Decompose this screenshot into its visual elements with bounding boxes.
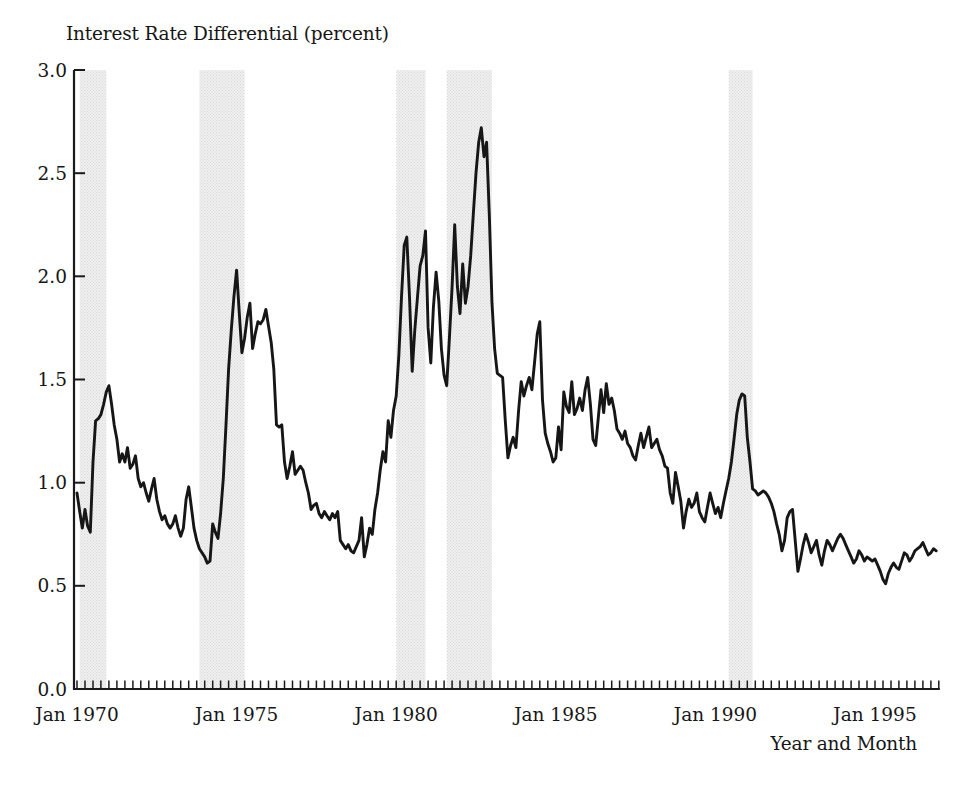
x-tick-label: Jan 1970	[33, 704, 118, 725]
chart-figure: 0.00.51.01.52.02.53.0Jan 1970Jan 1975Jan…	[0, 0, 977, 787]
x-tick-label: Jan 1985	[512, 704, 597, 725]
y-tick-label: 0.0	[38, 679, 67, 700]
recession-band	[729, 70, 753, 689]
recession-band	[396, 70, 425, 689]
y-tick-label: 1.0	[38, 472, 67, 493]
y-tick-label: 3.0	[38, 60, 67, 81]
recession-band	[199, 70, 244, 689]
chart-canvas: 0.00.51.01.52.02.53.0Jan 1970Jan 1975Jan…	[0, 0, 977, 787]
y-tick-label: 2.5	[38, 163, 67, 184]
y-tick-label: 1.5	[38, 369, 67, 390]
recession-bands	[80, 70, 753, 689]
y-tick-label: 2.0	[38, 266, 67, 287]
x-tick-label: Jan 1990	[672, 704, 757, 725]
y-tick-label: 0.5	[38, 575, 67, 596]
x-axis-title: Year and Month	[770, 733, 917, 754]
x-tick-labels: Jan 1970Jan 1975Jan 1980Jan 1985Jan 1990…	[33, 704, 916, 725]
x-tick-label: Jan 1995	[831, 704, 916, 725]
recession-band	[447, 70, 492, 689]
x-tick-label: Jan 1980	[353, 704, 438, 725]
y-tick-labels: 0.00.51.01.52.02.53.0	[38, 60, 67, 700]
chart-title: Interest Rate Differential (percent)	[66, 23, 389, 44]
line-chart: 0.00.51.01.52.02.53.0Jan 1970Jan 1975Jan…	[0, 0, 977, 787]
x-tick-label: Jan 1975	[193, 704, 278, 725]
